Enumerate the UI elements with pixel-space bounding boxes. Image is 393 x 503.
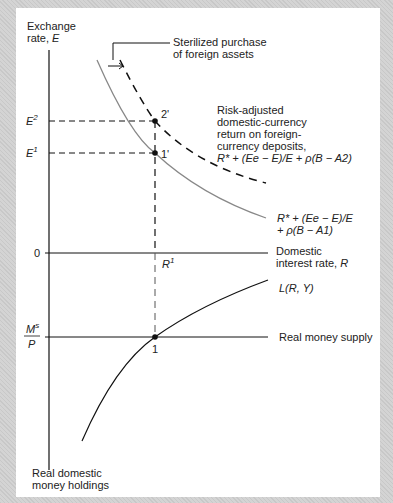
point-2prime (152, 118, 158, 124)
point-1-label: 1 (152, 343, 158, 355)
tick-E1: E1 (26, 147, 38, 159)
x-axis-label: Domestic interest rate, R (276, 245, 348, 269)
y-axis-label: Exchange rate, E (27, 20, 76, 44)
money-supply-label: Real money supply (279, 331, 373, 343)
R1-label: R1 (162, 258, 174, 270)
point-1prime-label: 1' (161, 148, 169, 160)
annotation-leader (113, 43, 170, 60)
money-demand-curve (82, 280, 268, 441)
money-demand-label: L(R, Y) (279, 282, 314, 294)
point-2prime-label: 2' (161, 108, 169, 120)
solid-curve-formula: R* + (Ee − E)/E + ρ(B − A1) (277, 212, 353, 236)
tick-E2: E2 (26, 115, 38, 127)
tick-ms: Ms (26, 323, 39, 335)
y-axis-bottom-label: Real domestic money holdings (32, 467, 109, 491)
point-1 (152, 334, 158, 340)
tick-p: P (28, 338, 35, 350)
sterilized-annotation: Sterilized purchase of foreign assets (173, 36, 267, 60)
dashed-curve-label: Risk-adjusted domestic-currency return o… (217, 104, 352, 164)
point-1prime (152, 150, 158, 156)
tick-zero: 0 (34, 247, 40, 259)
